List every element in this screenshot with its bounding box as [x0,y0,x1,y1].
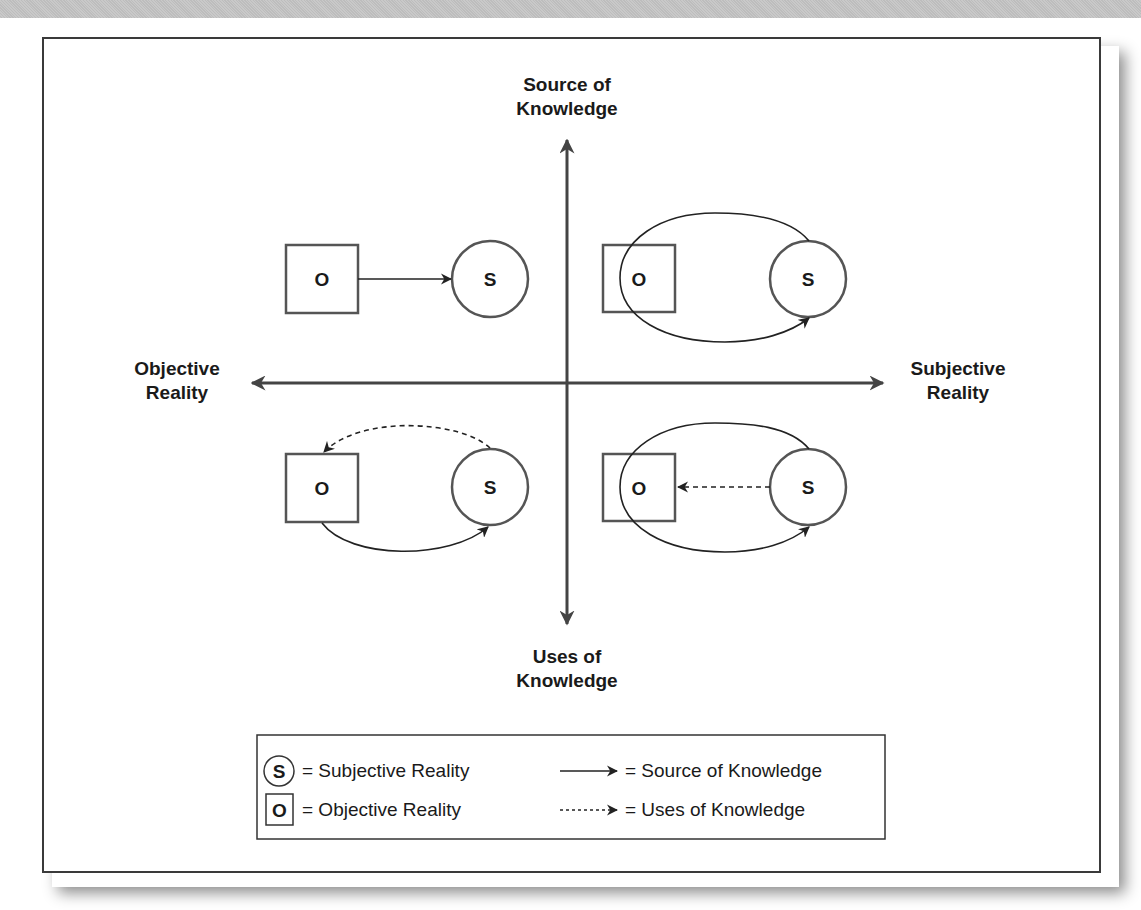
axis-label-right: Subjective Reality [888,357,1028,405]
quadrant-bottom-left: O S [286,426,528,552]
legend-box [257,735,885,839]
legend-uses-text: = Uses of Knowledge [625,799,805,821]
axis-label-top-line1: Source of [497,73,637,97]
legend-source-text: = Source of Knowledge [625,760,822,782]
objective-label: O [315,269,330,290]
axis-label-top-line2: Knowledge [497,97,637,121]
source-arrow-solid [322,523,488,551]
objective-label: O [632,269,647,290]
axis-label-right-line1: Subjective [888,357,1028,381]
legend-objective-text: = Objective Reality [302,799,461,821]
axis-label-right-line2: Reality [888,381,1028,405]
quadrant-bottom-right: O S [603,423,846,552]
axis-label-left: Objective Reality [112,357,242,405]
legend-o-symbol: O [272,800,287,821]
axis-label-left-line2: Reality [112,381,242,405]
axis-label-bottom: Uses of Knowledge [497,645,637,693]
quadrant-top-right: O S [603,213,846,342]
objective-label: O [315,478,330,499]
legend-subjective-text: = Subjective Reality [302,760,469,782]
subjective-label: S [802,477,815,498]
objective-label: O [632,478,647,499]
axis-label-bottom-line2: Knowledge [497,669,637,693]
subjective-label: S [802,269,815,290]
legend-s-symbol: S [273,761,286,782]
uses-arrow-dashed [324,426,490,452]
legend: S O [257,735,885,839]
diagram-canvas: O S O S O S O S S O [0,0,1141,910]
quadrant-top-left: O S [286,241,528,317]
axis-label-bottom-line1: Uses of [497,645,637,669]
axis-label-top: Source of Knowledge [497,73,637,121]
axis-label-left-line1: Objective [112,357,242,381]
subjective-label: S [484,477,497,498]
subjective-label: S [484,269,497,290]
